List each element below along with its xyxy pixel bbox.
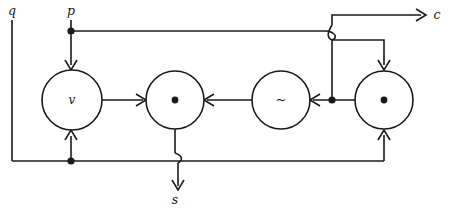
output-label-c: c	[433, 7, 440, 22]
diagram-canvas: v ~ q p c s	[0, 0, 451, 209]
junction-dot-q	[67, 157, 74, 164]
gate-not[interactable]: ~	[252, 71, 310, 129]
gate-not-label: ~	[276, 92, 287, 107]
gate-or[interactable]: v	[42, 70, 102, 130]
gate-and-4[interactable]	[355, 71, 413, 129]
wire-c-top	[332, 15, 421, 25]
junction-dot-c	[328, 96, 335, 103]
junction-dot-p	[67, 27, 74, 34]
input-label-q: q	[8, 3, 16, 18]
logic-circuit-svg: v ~ q p c s	[0, 0, 451, 209]
gate-and-2-dot-icon	[172, 97, 179, 104]
gate-and-2[interactable]	[146, 71, 204, 129]
gate-and-4-dot-icon	[381, 97, 388, 104]
output-label-s: s	[172, 192, 178, 207]
input-label-p: p	[67, 3, 75, 18]
gate-or-label: v	[69, 93, 76, 107]
wire-p-right2	[332, 40, 384, 65]
